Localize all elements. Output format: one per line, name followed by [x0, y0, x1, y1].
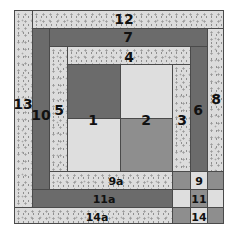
label-6: 6 — [193, 103, 203, 117]
label-12: 12 — [114, 12, 133, 26]
label-13: 13 — [13, 97, 32, 111]
label-9a: 9a — [108, 176, 123, 187]
label-14a: 14a — [86, 212, 109, 223]
corner-r3c1 — [172, 207, 191, 224]
corner-r3c3 — [207, 207, 224, 224]
label-3: 3 — [177, 113, 187, 127]
corner-r1c1 — [172, 171, 191, 190]
label-1: 1 — [88, 113, 98, 127]
corner-r2c3 — [207, 189, 224, 208]
label-10: 10 — [31, 108, 50, 122]
label-11a: 11a — [93, 194, 116, 205]
corner-r2c1 — [172, 189, 191, 208]
piece-1-dark — [67, 64, 121, 119]
label-2: 2 — [141, 113, 151, 127]
label-7: 7 — [123, 30, 133, 44]
quilt-block-diagram: 12 7 4 13 10 5 1 2 3 6 8 9a 11a 14a 9 11… — [0, 0, 236, 231]
piece-2-light — [120, 64, 173, 119]
label-4: 4 — [124, 50, 134, 64]
label-11: 11 — [191, 194, 206, 205]
label-5: 5 — [54, 103, 64, 117]
label-8: 8 — [211, 92, 221, 106]
label-14: 14 — [191, 212, 206, 223]
corner-r1c3 — [207, 171, 224, 190]
label-9: 9 — [195, 176, 203, 187]
